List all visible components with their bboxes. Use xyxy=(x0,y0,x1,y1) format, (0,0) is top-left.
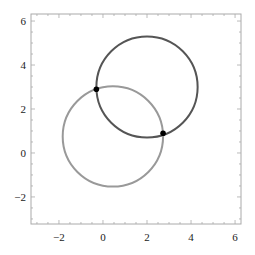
intersection-2-point xyxy=(160,130,166,136)
ticks-group xyxy=(31,14,241,224)
y-tick-labels: −20246 xyxy=(14,15,26,203)
x-tick-label: −2 xyxy=(53,231,65,243)
intersection-1-point xyxy=(94,86,100,92)
x-tick-label: 6 xyxy=(232,231,238,243)
curves-group xyxy=(63,36,198,186)
y-tick-label: 6 xyxy=(21,15,27,27)
y-tick-label: −2 xyxy=(14,191,26,203)
y-tick-label: 4 xyxy=(21,59,27,71)
y-tick-label: 0 xyxy=(21,147,27,159)
light-circle xyxy=(63,86,163,186)
chart: −20246 −20246 xyxy=(0,0,255,255)
points-group xyxy=(94,86,166,136)
x-tick-labels: −20246 xyxy=(53,231,238,243)
x-tick-label: 0 xyxy=(100,231,106,243)
y-tick-label: 2 xyxy=(21,103,27,115)
x-tick-label: 2 xyxy=(144,231,150,243)
plot-frame xyxy=(31,14,241,224)
x-tick-label: 4 xyxy=(188,231,194,243)
